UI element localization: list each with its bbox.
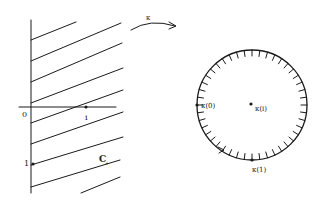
tick-mark — [259, 51, 260, 57]
kappa-1-label: κ(1) — [252, 166, 267, 174]
tick-mark — [229, 150, 231, 155]
kappa-0-label: κ(0) — [201, 102, 216, 110]
tick-mark — [216, 63, 220, 68]
tick-mark — [202, 125, 207, 127]
point-i — [84, 105, 87, 108]
kappa-i-label: κ(i) — [255, 105, 267, 113]
tick-mark — [222, 59, 225, 64]
tick-mark — [293, 75, 298, 78]
tick-mark — [199, 119, 205, 121]
tick-mark — [244, 51, 245, 57]
origin-label: 0 — [22, 110, 27, 119]
tick-mark — [199, 90, 205, 92]
tick-mark — [272, 150, 274, 155]
tick-mark — [210, 69, 215, 73]
tick-mark — [244, 154, 245, 160]
tick-mark — [297, 125, 302, 127]
tick-mark — [266, 152, 268, 158]
tick-mark — [279, 146, 282, 151]
tick-mark — [229, 55, 231, 60]
tick-mark — [210, 137, 215, 141]
tick-mark — [279, 59, 282, 64]
point-kappa-i — [249, 102, 252, 105]
tick-mark — [198, 97, 204, 98]
point-kappa-1 — [250, 158, 253, 161]
map-arrow — [131, 23, 175, 30]
point-1 — [31, 162, 34, 165]
diagram-canvas: 0 i 1 C + κ κ(0) κ(i) κ(1) — [0, 0, 323, 205]
tick-mark — [301, 112, 307, 113]
region-label-sub: + — [105, 160, 109, 166]
tick-mark — [299, 119, 305, 121]
tick-mark — [202, 82, 207, 84]
tick-mark — [266, 52, 268, 58]
tick-mark — [297, 82, 302, 84]
tick-mark — [259, 154, 260, 160]
tick-mark — [237, 152, 239, 158]
tick-mark — [206, 75, 211, 78]
tick-mark — [293, 132, 298, 135]
point-kappa-0 — [195, 103, 198, 106]
kappa-label: κ — [146, 14, 151, 22]
tick-mark — [272, 55, 274, 60]
i-label: i — [85, 113, 88, 122]
tick-mark — [206, 132, 211, 135]
tick-mark — [301, 97, 307, 98]
tick-mark — [289, 137, 294, 141]
tick-mark — [299, 90, 305, 92]
tick-mark — [289, 69, 294, 73]
tick-mark — [284, 142, 288, 147]
tick-mark — [216, 142, 220, 147]
tick-mark — [237, 52, 239, 58]
tick-mark — [284, 63, 288, 68]
tick-mark — [198, 112, 204, 113]
one-label: 1 — [24, 159, 29, 168]
diagram-svg: 0 i 1 C + κ κ(0) κ(i) κ(1) — [0, 0, 323, 205]
